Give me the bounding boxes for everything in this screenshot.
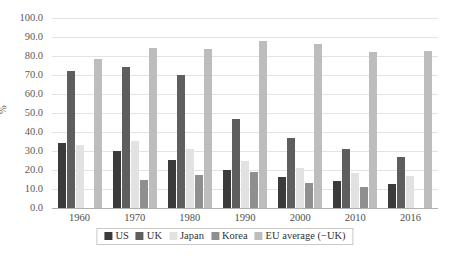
bar bbox=[131, 141, 139, 208]
bar bbox=[149, 48, 157, 208]
bar bbox=[314, 44, 322, 208]
y-axis-tick-label: 100.0 bbox=[19, 13, 43, 24]
bars-layer bbox=[52, 18, 438, 208]
y-axis-tick-label: 50.0 bbox=[25, 108, 43, 119]
bar bbox=[204, 49, 212, 208]
bar bbox=[122, 67, 130, 208]
bar bbox=[241, 161, 249, 209]
y-axis-tick-label: 30.0 bbox=[25, 146, 43, 157]
bar bbox=[58, 143, 66, 208]
bar bbox=[259, 41, 267, 208]
bar bbox=[140, 180, 148, 209]
legend-swatch-icon bbox=[211, 232, 219, 240]
bar bbox=[278, 177, 286, 208]
x-axis-tick-labels: 1960197019801990200020102016 bbox=[52, 210, 438, 226]
x-axis-tick-label: 1960 bbox=[52, 210, 107, 226]
bar-group bbox=[217, 18, 272, 208]
y-axis-tick-label: 0.0 bbox=[30, 203, 43, 214]
bar-group bbox=[328, 18, 383, 208]
bar bbox=[388, 184, 396, 208]
bar bbox=[195, 175, 203, 208]
y-axis-tick-label: 60.0 bbox=[25, 89, 43, 100]
x-axis-tick-label: 2016 bbox=[383, 210, 438, 226]
gridline bbox=[52, 208, 438, 209]
bar bbox=[223, 170, 231, 208]
bar-group bbox=[107, 18, 162, 208]
x-axis-tick-label: 1980 bbox=[162, 210, 217, 226]
x-axis-tick-label: 2010 bbox=[328, 210, 383, 226]
plot-area bbox=[52, 18, 438, 208]
bar bbox=[397, 157, 405, 208]
y-axis-tick-label: 10.0 bbox=[25, 184, 43, 195]
bar-group bbox=[162, 18, 217, 208]
bar-group bbox=[273, 18, 328, 208]
legend-label: EU average (−UK) bbox=[266, 231, 346, 242]
bar bbox=[76, 145, 84, 208]
x-axis-tick-label: 2000 bbox=[273, 210, 328, 226]
bar bbox=[360, 187, 368, 208]
bar bbox=[250, 172, 258, 208]
legend-label: Japan bbox=[180, 231, 204, 242]
bar bbox=[168, 160, 176, 208]
x-axis-tick-label: 1990 bbox=[217, 210, 272, 226]
bar bbox=[113, 151, 121, 208]
legend-label: Korea bbox=[222, 231, 248, 242]
legend-entry[interactable]: UK bbox=[136, 231, 162, 242]
legend-swatch-icon bbox=[255, 232, 263, 240]
legend-swatch-icon bbox=[104, 232, 112, 240]
bar bbox=[369, 52, 377, 208]
bar bbox=[186, 149, 194, 208]
legend-entry[interactable]: EU average (−UK) bbox=[255, 231, 346, 242]
bar bbox=[305, 183, 313, 208]
bar bbox=[177, 75, 185, 208]
legend-label: UK bbox=[147, 231, 162, 242]
legend-swatch-icon bbox=[169, 232, 177, 240]
legend-label: US bbox=[115, 231, 128, 242]
bar bbox=[296, 168, 304, 208]
legend-entry[interactable]: Korea bbox=[211, 231, 248, 242]
y-axis-tick-label: 70.0 bbox=[25, 70, 43, 81]
bar bbox=[287, 138, 295, 208]
y-axis-tick-label: 20.0 bbox=[25, 165, 43, 176]
bar bbox=[232, 119, 240, 208]
bar-group bbox=[383, 18, 438, 208]
bar bbox=[94, 59, 102, 208]
y-axis-tick-label: 80.0 bbox=[25, 51, 43, 62]
bar bbox=[67, 71, 75, 208]
bar bbox=[406, 176, 414, 208]
y-axis-tick-label: 40.0 bbox=[25, 127, 43, 138]
bar bbox=[351, 173, 359, 208]
x-axis-tick-label: 1970 bbox=[107, 210, 162, 226]
y-axis-tick-labels: 0.010.020.030.040.050.060.070.080.090.01… bbox=[0, 18, 48, 208]
legend-entry[interactable]: US bbox=[104, 231, 128, 242]
bar-chart: % 0.010.020.030.040.050.060.070.080.090.… bbox=[0, 0, 450, 256]
legend-entry[interactable]: Japan bbox=[169, 231, 204, 242]
chart-legend: USUKJapanKoreaEU average (−UK) bbox=[96, 228, 353, 245]
y-axis-tick-label: 90.0 bbox=[25, 32, 43, 43]
bar bbox=[424, 51, 432, 208]
bar bbox=[333, 181, 341, 208]
bar-group bbox=[52, 18, 107, 208]
legend-swatch-icon bbox=[136, 232, 144, 240]
bar bbox=[342, 149, 350, 208]
